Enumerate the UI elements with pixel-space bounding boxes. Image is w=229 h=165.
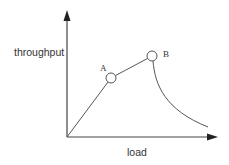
segment-origin-to-a [67, 82, 108, 137]
y-axis-arrowhead-icon [64, 10, 71, 21]
point-a-marker [106, 73, 116, 83]
y-axis [64, 10, 71, 137]
x-axis [67, 134, 218, 141]
point-b-marker [147, 51, 157, 61]
point-a-label: A [100, 63, 107, 73]
segment-a-to-b [116, 59, 148, 76]
x-axis-label: load [127, 146, 147, 158]
x-axis-arrowhead-icon [207, 134, 218, 141]
y-axis-label: throughput [14, 46, 64, 58]
point-b-label: B [163, 49, 169, 59]
decline-curve [153, 61, 208, 127]
throughput-load-diagram: A B throughput load [0, 0, 229, 165]
